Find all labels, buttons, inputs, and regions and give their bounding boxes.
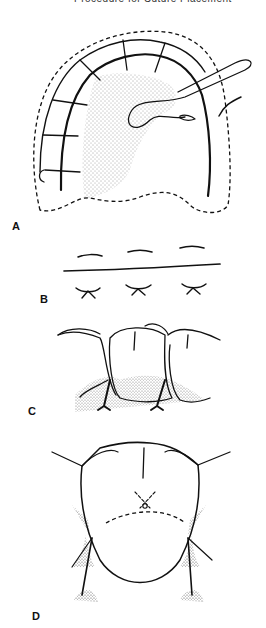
figure-illustration	[0, 0, 266, 628]
panel-c-drawing	[58, 324, 220, 412]
panel-d-drawing	[52, 443, 230, 602]
panel-label-c: C	[28, 405, 36, 417]
panel-label-a: A	[12, 220, 20, 232]
panel-b-drawing	[64, 247, 220, 299]
panel-label-b: B	[40, 293, 48, 305]
panel-a-drawing	[34, 31, 251, 212]
panel-label-d: D	[32, 610, 40, 622]
